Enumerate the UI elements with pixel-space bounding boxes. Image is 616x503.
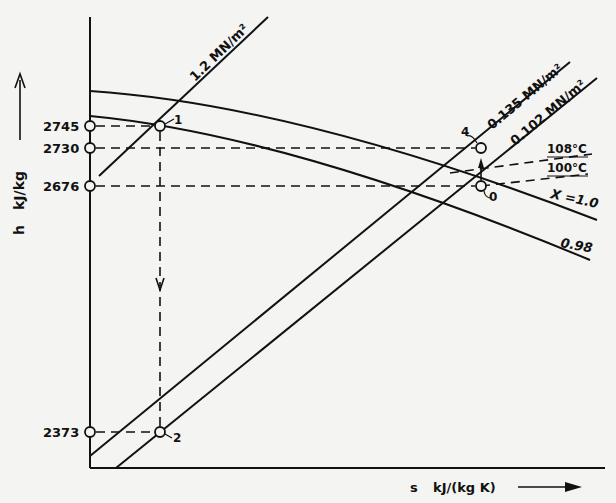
- x-axis-unit: kJ/(kg K): [433, 480, 496, 495]
- x-axis-arrow-icon: [565, 482, 582, 492]
- point-label-0: 0: [489, 190, 497, 204]
- y-tick-2676: 2676: [43, 179, 79, 194]
- h-s-diagram: 2745 2730 2676 2373 h kJ/kg s kJ/(kg K) …: [0, 0, 616, 503]
- tick-circle-2730: [85, 143, 95, 153]
- point-label-4: 4: [461, 125, 469, 139]
- quality-label-098: 0.98: [559, 235, 593, 255]
- y-tick-2730: 2730: [43, 141, 79, 156]
- tick-circle-2373: [85, 427, 95, 437]
- arrow-up-icon: [478, 158, 484, 168]
- y-axis-unit: kJ/kg: [11, 171, 27, 210]
- isobar-1-2: [99, 17, 268, 176]
- isobar-label-1-2: 1.2 MN/m²: [187, 21, 252, 84]
- isobar-label-0-102: 0.102 MN/m²: [507, 77, 588, 149]
- x-axis-symbol: s: [410, 480, 418, 495]
- point-1: [155, 121, 165, 131]
- point-4: [476, 143, 486, 153]
- point-label-1: 1: [174, 113, 182, 127]
- y-axis-symbol: h: [11, 225, 27, 235]
- isotherm-label-100: 100°C: [547, 161, 587, 175]
- y-tick-2373: 2373: [43, 425, 79, 440]
- quality-label-x1: X =1.0: [548, 186, 600, 211]
- point-0: [476, 181, 486, 191]
- tick-circle-2676: [85, 181, 95, 191]
- point-label-2: 2: [173, 431, 181, 445]
- tick-circle-2745: [85, 121, 95, 131]
- quality-line-x1: [90, 91, 597, 220]
- isotherm-label-108: 108°C: [547, 142, 587, 156]
- point-2: [155, 427, 165, 437]
- y-tick-2745: 2745: [43, 119, 79, 134]
